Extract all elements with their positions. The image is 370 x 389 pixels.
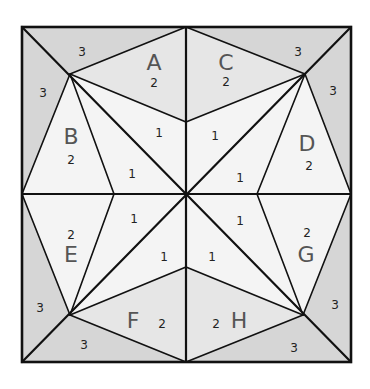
- label-center-nnw: 1: [155, 126, 163, 140]
- label-tl-top: 3: [78, 45, 86, 59]
- seam-lines: [22, 27, 351, 362]
- label-bl-bottom: 3: [80, 338, 88, 352]
- label-a-letter: A: [146, 50, 161, 75]
- label-g-number: 2: [303, 226, 311, 240]
- label-center-wnw: 1: [128, 167, 136, 181]
- label-center-ssw: 1: [160, 250, 168, 264]
- label-br-right: 3: [331, 298, 339, 312]
- label-d-number: 2: [305, 159, 313, 173]
- label-br-bottom: 3: [290, 341, 298, 355]
- label-b-letter: B: [63, 124, 78, 149]
- label-tl-left: 3: [39, 86, 47, 100]
- label-e-letter: E: [64, 242, 78, 267]
- label-f-letter: F: [127, 308, 140, 333]
- label-center-wsw: 1: [130, 212, 138, 226]
- label-bl-left: 3: [36, 301, 44, 315]
- label-d-letter: D: [299, 131, 316, 156]
- label-a-number: 2: [150, 76, 158, 90]
- label-e-number: 2: [67, 228, 75, 242]
- label-f-number: 2: [158, 317, 166, 331]
- label-tr-top: 3: [294, 45, 302, 59]
- quilt-block-diagram: A 2 B 2 C 2 D 2 2 E F 2 2 G 2 H 3 3 3 3 …: [0, 0, 370, 389]
- label-h-number: 2: [212, 317, 220, 331]
- label-center-ese: 1: [236, 214, 244, 228]
- label-b-number: 2: [67, 153, 75, 167]
- label-h-letter: H: [231, 308, 248, 333]
- label-c-number: 2: [222, 75, 230, 89]
- label-tr-right: 3: [329, 84, 337, 98]
- label-center-ene: 1: [236, 171, 244, 185]
- label-g-letter: G: [297, 242, 314, 267]
- label-center-nne: 1: [211, 129, 219, 143]
- label-c-letter: C: [218, 50, 233, 75]
- label-center-sse: 1: [208, 250, 216, 264]
